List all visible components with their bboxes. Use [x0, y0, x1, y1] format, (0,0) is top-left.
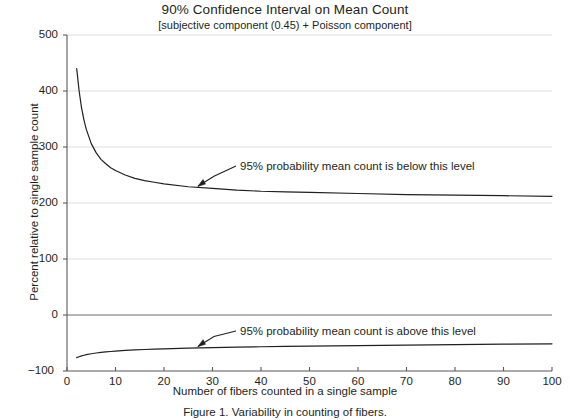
upper-confidence-bound: [77, 69, 552, 197]
gridlines: [67, 35, 552, 315]
annotation-leaders: [198, 166, 236, 346]
lower-annotation-arrowhead: [198, 340, 206, 347]
data-series: [77, 69, 552, 358]
plot-area: [0, 0, 570, 420]
lower-confidence-bound: [77, 344, 552, 358]
upper-annotation-arrowhead: [198, 180, 206, 187]
figure-container: 90% Confidence Interval on Mean Count [s…: [0, 0, 570, 420]
